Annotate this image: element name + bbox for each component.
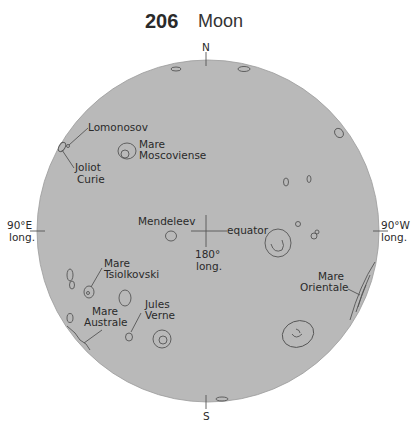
east-long-label-line1: 90°E	[7, 219, 32, 231]
west-long-label-line2: long.	[381, 231, 407, 243]
label-jules-verne-line2: Verne	[145, 309, 175, 321]
equator-label: equator	[227, 224, 269, 236]
east-long-label-line2: long.	[9, 231, 35, 243]
moon-far-side-map: N S 90°E long. 90°W long. equator 180° l…	[0, 0, 417, 425]
north-label: N	[202, 41, 210, 53]
label-joliot-curie-line2: Curie	[77, 173, 105, 185]
label-mare-tsiolkovski-line2: Tsiolkovski	[103, 268, 159, 280]
center-long-label-line1: 180°	[195, 248, 220, 260]
label-mare-moscoviense-line2: Moscoviense	[139, 149, 206, 161]
center-long-label-line2: long.	[196, 260, 222, 272]
label-mendeleev: Mendeleev	[138, 215, 195, 227]
label-lomonosov: Lomonosov	[88, 121, 148, 133]
label-mare-australe-line2: Australe	[84, 316, 128, 328]
label-mare-orientale-line2: Orientale	[300, 281, 349, 293]
west-long-label-line1: 90°W	[381, 219, 411, 231]
south-label: S	[203, 410, 210, 422]
label-joliot-curie-line1: Joliot	[74, 161, 101, 173]
